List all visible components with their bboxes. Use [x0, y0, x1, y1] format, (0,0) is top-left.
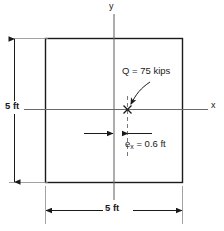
x-axis-label: x — [211, 101, 216, 110]
eccentricity-label: ex = 0.6 ft — [125, 139, 166, 149]
eccentricity-subscript: x — [130, 143, 134, 150]
diagram-canvas — [0, 0, 224, 231]
left-dimension-label: 5 ft — [4, 101, 20, 111]
eccentricity-value: = 0.6 ft — [134, 138, 166, 149]
bottom-dimension-label: 5 ft — [104, 203, 120, 213]
footing-diagram: y x 5 ft 5 ft Q = 75 kips ex = 0.6 ft — [0, 0, 224, 231]
y-axis-label: y — [109, 2, 114, 11]
load-leader-arrow — [131, 82, 150, 104]
load-label: Q = 75 kips — [122, 66, 170, 76]
